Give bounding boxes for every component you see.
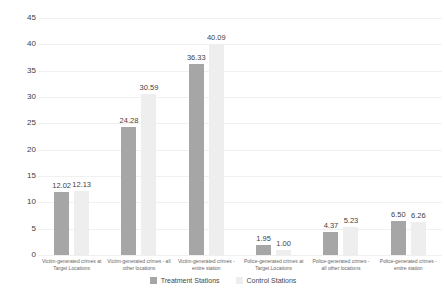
x-axis-category-labels: Victim-generated crimes at Target Locati… (38, 258, 442, 272)
legend: Treatment StationsControl Stations (0, 277, 446, 284)
legend-marker-icon (236, 277, 243, 284)
legend-item: Treatment Stations (150, 277, 220, 284)
bar-group: 24.2830.59 (105, 18, 172, 255)
plot-area: 12.0212.1324.2830.5936.3340.091.951.004.… (38, 18, 442, 255)
bar-treatment-stations: 1.95 (256, 245, 271, 255)
y-axis-tick-label: 5 (6, 225, 36, 233)
bar-group: 6.506.26 (375, 18, 442, 255)
y-axis-tick-label: 30 (6, 93, 36, 101)
value-label: 6.26 (411, 212, 426, 220)
category-label: Victim-generated crimes at Target Locati… (38, 258, 105, 272)
value-label: 12.02 (52, 182, 71, 190)
value-label: 12.13 (72, 181, 91, 189)
y-axis-tick-label: 0 (6, 251, 36, 259)
bar-chart: 454035302520151050 12.0212.1324.2830.593… (0, 0, 446, 298)
category-label: Police-generated crimes - all other loca… (307, 258, 374, 272)
value-label: 1.00 (276, 240, 291, 248)
category-label: Police-generated crimes at Target Locati… (240, 258, 307, 272)
value-label: 36.33 (187, 54, 206, 62)
bar-control-stations: 6.26 (411, 222, 426, 255)
bar-control-stations: 40.09 (209, 44, 224, 255)
value-label: 24.28 (120, 117, 139, 125)
value-label: 4.37 (324, 222, 339, 230)
value-label: 1.95 (256, 235, 271, 243)
bar-treatment-stations: 24.28 (121, 127, 136, 255)
y-axis-tick-label: 20 (6, 146, 36, 154)
y-axis-tick-label: 40 (6, 40, 36, 48)
value-label: 6.50 (391, 211, 406, 219)
value-label: 30.59 (140, 84, 159, 92)
category-label: Victim-generated crimes - all other loca… (105, 258, 172, 272)
bar-control-stations: 12.13 (74, 191, 89, 255)
y-axis-tick-label: 45 (6, 14, 36, 22)
bar-treatment-stations: 36.33 (189, 64, 204, 255)
bar-treatment-stations: 12.02 (54, 192, 69, 255)
bar-treatment-stations: 6.50 (391, 221, 406, 255)
legend-marker-icon (150, 277, 157, 284)
bar-group: 4.375.23 (307, 18, 374, 255)
bar-control-stations: 1.00 (276, 250, 291, 255)
value-label: 5.23 (344, 217, 359, 225)
bar-group: 1.951.00 (240, 18, 307, 255)
gridline (38, 255, 442, 256)
bar-group: 36.3340.09 (173, 18, 240, 255)
y-axis-tick-label: 35 (6, 67, 36, 75)
bar-treatment-stations: 4.37 (323, 232, 338, 255)
category-label: Police-generated crimes - entire station (375, 258, 442, 272)
category-label: Victim-generated crimes - entire station (173, 258, 240, 272)
value-label: 40.09 (207, 34, 226, 42)
legend-label: Treatment Stations (161, 277, 220, 284)
bar-group: 12.0212.13 (38, 18, 105, 255)
y-axis-tick-label: 15 (6, 172, 36, 180)
bar-control-stations: 30.59 (141, 94, 156, 255)
y-axis-tick-label: 25 (6, 119, 36, 127)
legend-item: Control Stations (236, 277, 297, 284)
legend-label: Control Stations (247, 277, 297, 284)
y-axis-tick-label: 10 (6, 198, 36, 206)
bar-control-stations: 5.23 (343, 227, 358, 255)
